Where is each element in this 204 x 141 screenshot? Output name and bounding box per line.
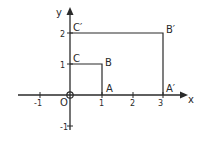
vertex-label-a: A [106, 83, 113, 94]
origin-point: O [60, 92, 73, 108]
x-tick-label-3: 3 [158, 99, 163, 108]
vertex-label-c: C [73, 53, 80, 64]
origin-label: O [60, 97, 68, 108]
y-axis-label: y [56, 7, 62, 18]
x-tick-label-neg1: -1 [34, 99, 42, 108]
small-rectangle: A B C [70, 53, 113, 95]
y-tick-label-neg1: -1 [60, 123, 68, 132]
x-axis-label: x [188, 94, 194, 105]
y-tick-label-1: 1 [60, 61, 65, 70]
large-rectangle: A′ B′ C′ [70, 22, 176, 95]
vertex-label-b-prime: B′ [166, 24, 176, 35]
x-tick-label-2: 2 [130, 99, 135, 108]
vertex-label-b: B [105, 57, 112, 68]
y-axis-arrow-icon [67, 7, 74, 15]
x-tick-label-1: 1 [99, 99, 104, 108]
x-axis-arrow-icon [180, 92, 188, 99]
vertex-label-a-prime: A′ [166, 83, 176, 94]
y-ticks: 1 2 -1 [60, 30, 73, 132]
vertex-label-c-prime: C′ [73, 22, 83, 33]
coordinate-diagram: x y -1 1 2 3 1 2 -1 [0, 0, 204, 141]
y-tick-label-2: 2 [60, 30, 65, 39]
